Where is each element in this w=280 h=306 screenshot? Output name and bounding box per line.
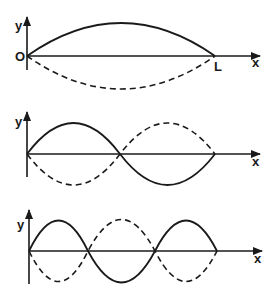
standing-wave-diagram: y O L x y x y x (0, 0, 280, 306)
panel-mode-3: y x (17, 210, 262, 284)
y-axis-label: y (17, 217, 25, 232)
y-axis-label: y (15, 114, 23, 129)
y-axis-label: y (15, 18, 23, 33)
wave-solid (27, 23, 215, 56)
x-axis-label: x (254, 251, 262, 266)
diagram-canvas: y O L x y x y x (0, 0, 280, 306)
panel-mode-1: y O L x (15, 17, 260, 89)
end-label: L (214, 59, 222, 74)
x-axis-label: x (252, 154, 260, 169)
panel-mode-2: y x (15, 112, 260, 185)
wave-dashed (27, 56, 215, 89)
origin-label: O (15, 49, 25, 64)
x-axis-label: x (252, 55, 260, 70)
